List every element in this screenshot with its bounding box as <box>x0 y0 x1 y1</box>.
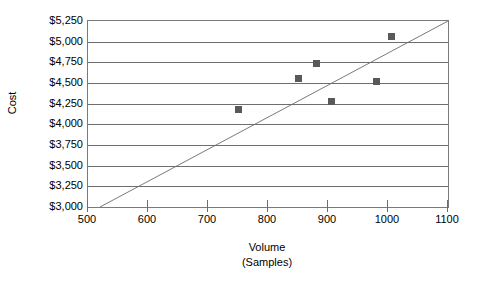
y-axis-tick-label: $5,000 <box>22 35 83 47</box>
data-point-marker <box>388 33 395 40</box>
gridline <box>88 124 448 125</box>
x-axis-tick <box>327 200 328 212</box>
x-axis-tick <box>387 200 388 212</box>
x-axis-title-line1: Volume <box>87 240 447 255</box>
y-axis-tick-labels: $3,000$3,250$3,500$3,750$4,000$4,250$4,5… <box>22 0 83 230</box>
y-axis-tick-label: $4,750 <box>22 55 83 67</box>
y-axis-tick-label: $4,000 <box>22 117 83 129</box>
x-axis-tick-label: 700 <box>177 213 237 226</box>
y-axis-tick-label: $3,500 <box>22 159 83 171</box>
gridline <box>88 145 448 146</box>
gridline <box>88 42 448 43</box>
x-axis-title: Volume (Samples) <box>87 240 447 270</box>
x-axis-title-line2: (Samples) <box>87 255 447 270</box>
x-axis-tick-label: 500 <box>57 213 117 226</box>
gridline <box>88 62 448 63</box>
x-axis-tick-label: 1000 <box>357 213 417 226</box>
gridline <box>88 166 448 167</box>
data-point-marker <box>295 75 302 82</box>
x-axis-tick <box>447 200 448 212</box>
data-point-marker <box>373 78 380 85</box>
y-axis-title-text: Cost <box>6 92 18 115</box>
y-axis-tick-label: $3,750 <box>22 138 83 150</box>
gridline <box>88 186 448 187</box>
gridline <box>88 83 448 84</box>
x-axis-tick <box>207 200 208 212</box>
y-axis-title: Cost <box>2 0 22 206</box>
plot-area <box>87 20 449 208</box>
x-axis-tick-label: 900 <box>297 213 357 226</box>
data-point-marker <box>328 98 335 105</box>
x-axis-tick-label: 800 <box>237 213 297 226</box>
y-axis-tick-label: $4,250 <box>22 97 83 109</box>
x-axis-tick-label: 1100 <box>417 213 477 226</box>
data-point-marker <box>313 60 320 67</box>
x-axis-tick <box>267 200 268 212</box>
y-axis-tick-label: $3,000 <box>22 200 83 212</box>
x-axis-ticks <box>87 200 449 212</box>
gridline <box>88 104 448 105</box>
y-axis-tick-label: $5,250 <box>22 14 83 26</box>
x-axis-tick <box>87 200 88 212</box>
reference-line <box>88 21 448 207</box>
data-point-marker <box>235 106 242 113</box>
y-axis-tick-label: $4,500 <box>22 76 83 88</box>
x-axis-tick-labels: 50060070080090010001100 <box>0 213 480 227</box>
scatter-chart: Cost $3,000$3,250$3,500$3,750$4,000$4,25… <box>0 0 480 290</box>
y-axis-tick-label: $3,250 <box>22 179 83 191</box>
x-axis-tick <box>147 200 148 212</box>
x-axis-tick-label: 600 <box>117 213 177 226</box>
